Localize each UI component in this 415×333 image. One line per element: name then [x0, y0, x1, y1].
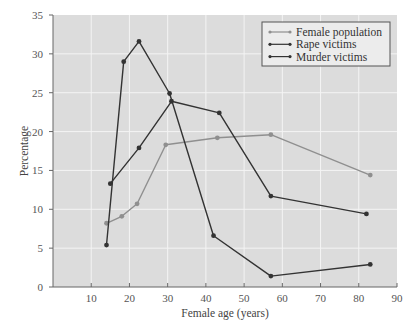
data-point-marker — [167, 91, 172, 96]
legend-marker-icon — [268, 30, 271, 33]
data-point-marker — [137, 145, 142, 150]
x-tick-label: 60 — [277, 292, 289, 304]
y-tick-label: 0 — [38, 281, 44, 293]
legend-marker-icon — [288, 43, 291, 46]
legend-label: Murder victims — [296, 51, 368, 63]
legend-marker-icon — [288, 55, 291, 58]
data-point-marker — [119, 214, 124, 219]
y-tick-label: 5 — [38, 242, 44, 254]
data-point-marker — [135, 201, 140, 206]
legend-marker-icon — [268, 43, 271, 46]
y-tick-label: 20 — [32, 126, 44, 138]
x-tick-label: 20 — [124, 292, 136, 304]
data-point-marker — [364, 212, 369, 217]
y-tick-label: 30 — [32, 48, 44, 60]
x-tick-label: 10 — [86, 292, 98, 304]
x-tick-label: 70 — [315, 292, 327, 304]
data-point-marker — [268, 194, 273, 199]
data-point-marker — [104, 243, 109, 248]
data-point-marker — [268, 132, 273, 137]
data-point-marker — [368, 262, 373, 267]
x-tick-label: 40 — [200, 292, 212, 304]
line-chart: 05101520253035102030405060708090 Female … — [0, 0, 415, 333]
data-point-marker — [215, 135, 220, 140]
legend-label: Female population — [296, 26, 382, 39]
legend-marker-icon — [268, 55, 271, 58]
data-point-marker — [121, 59, 126, 64]
data-point-marker — [217, 111, 222, 116]
y-tick-label: 35 — [32, 9, 44, 21]
x-tick-label: 30 — [162, 292, 174, 304]
data-point-marker — [368, 173, 373, 178]
legend-marker-icon — [288, 30, 291, 33]
data-point-marker — [163, 142, 168, 147]
y-tick-label: 10 — [32, 203, 44, 215]
x-tick-label: 50 — [239, 292, 251, 304]
data-point-marker — [268, 274, 273, 279]
data-point-marker — [211, 233, 216, 238]
y-tick-label: 15 — [32, 164, 44, 176]
y-axis-title: Percentage — [18, 126, 31, 176]
x-tick-label: 80 — [353, 292, 365, 304]
y-tick-label: 25 — [32, 87, 44, 99]
legend-label: Rape victims — [296, 38, 357, 51]
legend: Female populationRape victimsMurder vict… — [262, 22, 390, 66]
data-point-marker — [137, 39, 142, 44]
x-axis-title: Female age (years) — [181, 307, 269, 320]
x-tick-label: 90 — [392, 292, 404, 304]
